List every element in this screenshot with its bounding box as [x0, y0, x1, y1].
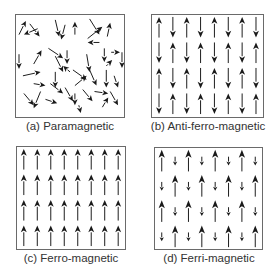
antiferromagnetic-spin-box — [151, 14, 264, 118]
paramagnetic-spin-box — [15, 14, 125, 118]
ferromagnetic-spin-box — [16, 146, 126, 250]
antiparallel-spin-arrows-icon — [152, 15, 263, 117]
unequal-antiparallel-spin-arrows-icon — [155, 148, 262, 249]
caption-ferromagnetic: (c) Ferro-magnetic — [16, 252, 126, 264]
caption-paramagnetic: (a) Paramagnetic — [15, 120, 125, 132]
caption-antiferromagnetic: (b) Anti-ferro-magnetic — [148, 120, 268, 132]
caption-ferrimagnetic: (d) Ferri-magnetic — [150, 252, 268, 264]
parallel-spin-arrows-icon — [17, 147, 125, 249]
random-spin-arrows-icon — [16, 15, 124, 117]
ferrimagnetic-spin-box — [154, 147, 263, 250]
